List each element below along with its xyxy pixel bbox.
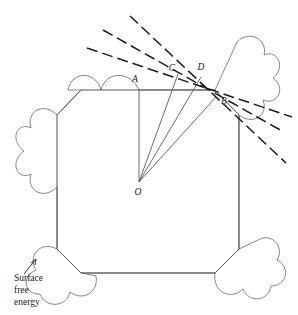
tangent-line-at-C	[103, 30, 282, 131]
label-point-c: C	[169, 63, 176, 73]
caption-line-1: Surface	[14, 273, 43, 283]
caption-line-2: free	[14, 285, 29, 295]
diagram-canvas: A C D B O Surface free energy	[0, 0, 298, 315]
label-origin-o: O	[135, 187, 142, 197]
label-point-a: A	[131, 74, 138, 84]
tangent-line-at-D	[87, 48, 292, 117]
crystal-polygon-group	[57, 90, 239, 273]
label-point-d: D	[197, 62, 205, 72]
radial-line-OD	[139, 77, 201, 182]
surface-free-energy-curve	[16, 36, 286, 304]
wulff-construction-figure: A C D B O Surface free energy	[0, 0, 298, 315]
gamma-plot-group	[16, 36, 286, 304]
radial-line-OB	[139, 97, 216, 182]
equilibrium-crystal-octagon	[57, 90, 239, 273]
caption-line-3: energy	[14, 297, 40, 307]
label-point-b: B	[221, 96, 227, 106]
